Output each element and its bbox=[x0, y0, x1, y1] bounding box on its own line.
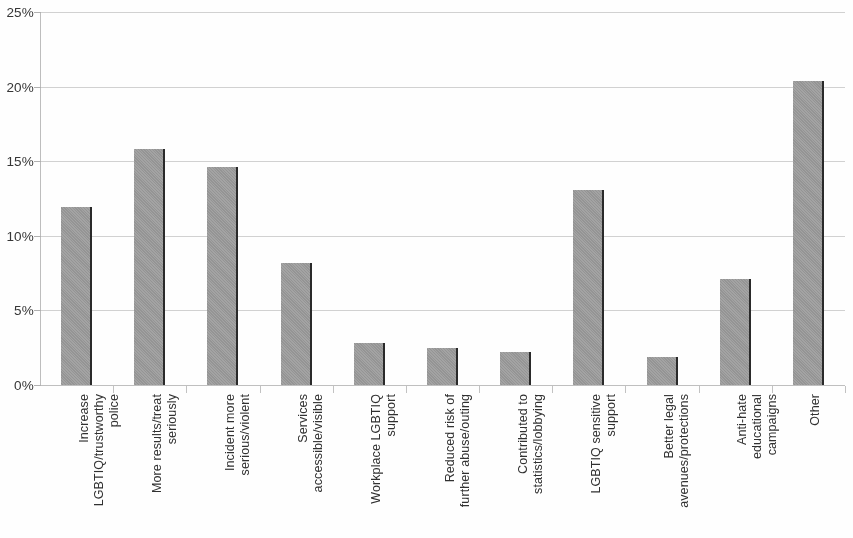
bar-column bbox=[720, 12, 751, 385]
y-tick-label: 25% bbox=[6, 5, 34, 20]
bar-column bbox=[207, 12, 238, 385]
x-axis-category-label: Services accessible/visible bbox=[296, 392, 366, 538]
x-tick-mark bbox=[845, 386, 846, 393]
y-tick-mark bbox=[34, 87, 41, 88]
x-tick-mark bbox=[186, 386, 187, 393]
x-axis-category-label: Anti-hate educational campaigns bbox=[735, 392, 805, 538]
y-tick-label: 5% bbox=[14, 303, 34, 318]
y-tick-label: 20% bbox=[6, 79, 34, 94]
bar bbox=[61, 207, 92, 385]
x-axis-category-label: Incident more serious/violent bbox=[223, 392, 293, 538]
bar bbox=[793, 81, 824, 385]
x-axis-category-text: Contributed to statistics/lobbying bbox=[516, 394, 546, 494]
x-axis-category-label: Workplace LGBTIQ support bbox=[369, 392, 439, 538]
x-axis-category-label: Contributed to statistics/lobbying bbox=[516, 392, 586, 538]
x-tick-mark bbox=[772, 386, 773, 393]
y-axis-labels: 25%20%15%10%5%0% bbox=[0, 0, 34, 538]
x-tick-mark bbox=[625, 386, 626, 393]
bar-column bbox=[134, 12, 165, 385]
x-axis-category-text: LGBTIQ sensitive support bbox=[589, 394, 619, 494]
bar-column bbox=[500, 12, 531, 385]
bar-column bbox=[281, 12, 312, 385]
x-axis-category-text: Services accessible/visible bbox=[296, 394, 326, 492]
bar bbox=[207, 167, 238, 385]
x-axis-category-label: Other bbox=[808, 392, 853, 538]
x-axis-category-text: Anti-hate educational campaigns bbox=[735, 394, 780, 459]
bar-column bbox=[647, 12, 678, 385]
y-tick-mark bbox=[34, 385, 41, 386]
bar-column bbox=[793, 12, 824, 385]
bar bbox=[720, 279, 751, 385]
x-axis-category-text: Incident more serious/violent bbox=[223, 394, 253, 475]
x-axis-category-text: Better legal avenues/protections bbox=[662, 394, 692, 508]
x-axis-category-text: Workplace LGBTIQ support bbox=[369, 394, 399, 504]
plot-area bbox=[40, 12, 845, 385]
x-axis-category-text: Other bbox=[808, 394, 823, 426]
y-tick-label: 10% bbox=[6, 228, 34, 243]
x-axis-category-label: LGBTIQ sensitive support bbox=[589, 392, 659, 538]
x-axis-category-text: Reduced risk of further abuse/outing bbox=[443, 394, 473, 507]
bar-chart: 25%20%15%10%5%0% Increase LGBTIQ/trustwo… bbox=[0, 0, 853, 538]
bar bbox=[354, 343, 385, 385]
bar bbox=[500, 352, 531, 385]
x-axis-category-label: Better legal avenues/protections bbox=[662, 392, 732, 538]
y-tick-label: 0% bbox=[14, 378, 34, 393]
x-axis-category-label: More results/treat seriously bbox=[150, 392, 220, 538]
x-axis-category-text: More results/treat seriously bbox=[150, 394, 180, 493]
x-tick-mark bbox=[699, 386, 700, 393]
bar-column bbox=[61, 12, 92, 385]
x-tick-mark bbox=[552, 386, 553, 393]
bar bbox=[573, 190, 604, 385]
x-tick-mark bbox=[260, 386, 261, 393]
x-tick-mark bbox=[113, 386, 114, 393]
x-tick-mark bbox=[479, 386, 480, 393]
y-tick-mark bbox=[34, 161, 41, 162]
bar bbox=[647, 357, 678, 385]
x-axis-category-label: Increase LGBTIQ/trustworthy police bbox=[77, 392, 147, 538]
bar-column bbox=[573, 12, 604, 385]
y-tick-mark bbox=[34, 310, 41, 311]
x-axis-category-label: Reduced risk of further abuse/outing bbox=[443, 392, 513, 538]
gridline-0 bbox=[40, 385, 845, 386]
bar-column bbox=[354, 12, 385, 385]
bar bbox=[427, 348, 458, 385]
bar-column bbox=[427, 12, 458, 385]
bar bbox=[281, 263, 312, 385]
bar bbox=[134, 149, 165, 385]
x-tick-mark bbox=[333, 386, 334, 393]
y-tick-mark bbox=[34, 236, 41, 237]
x-axis-labels: Increase LGBTIQ/trustworthy policeMore r… bbox=[40, 392, 845, 538]
x-tick-mark bbox=[406, 386, 407, 393]
x-axis-category-text: Increase LGBTIQ/trustworthy police bbox=[77, 394, 122, 506]
y-tick-label: 15% bbox=[6, 154, 34, 169]
y-tick-mark bbox=[34, 12, 41, 13]
